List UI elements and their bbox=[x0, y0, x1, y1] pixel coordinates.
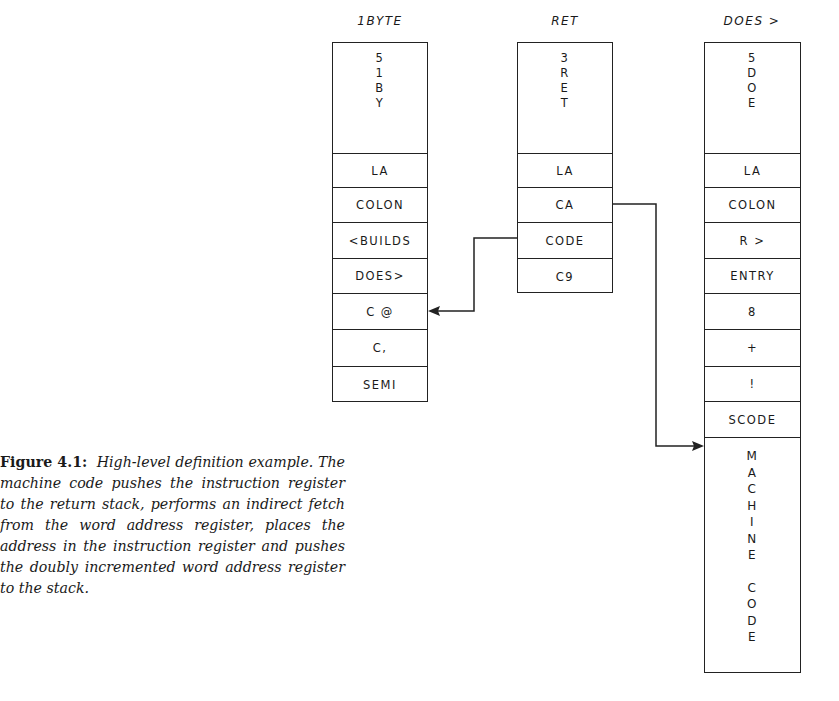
caption-text: High-level definition example. The machi… bbox=[0, 454, 345, 596]
connector-ca-to-machine-code bbox=[613, 204, 704, 451]
connector-code-to-cfetch bbox=[428, 238, 517, 316]
figure-number: Figure 4.1: bbox=[0, 454, 87, 470]
figure-caption: Figure 4.1: High-level definition exampl… bbox=[0, 452, 345, 599]
